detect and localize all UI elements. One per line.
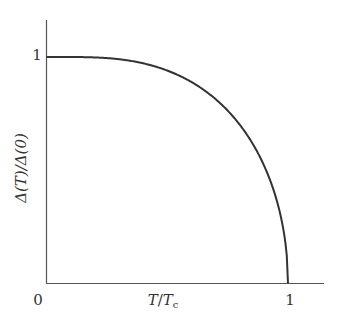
gap-temperature-chart: 1 0 1 T/Tc Δ(T)/Δ(0) <box>0 0 343 321</box>
x-axis-label: T/Tc <box>148 291 179 310</box>
gap-curve <box>47 57 289 284</box>
y-tick-label-1: 1 <box>32 46 42 64</box>
x-tick-label-1: 1 <box>285 291 295 309</box>
y-axis-label: Δ(T)/Δ(0) <box>12 133 30 204</box>
x-tick-label-0: 0 <box>33 291 43 309</box>
